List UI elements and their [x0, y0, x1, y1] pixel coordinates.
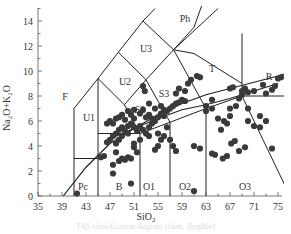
sample-point [260, 82, 266, 88]
sample-point [176, 85, 182, 91]
sample-point [167, 137, 173, 143]
data-points [74, 73, 284, 197]
sample-point [149, 120, 155, 126]
sample-point [122, 117, 128, 123]
sample-point [128, 180, 134, 186]
field-label-o3: O3 [239, 181, 251, 192]
sample-point [236, 148, 242, 154]
sample-point [272, 83, 278, 89]
sample-point [182, 98, 188, 104]
sample-point [152, 105, 158, 111]
sample-point [110, 162, 116, 168]
field-label-o1: O1 [143, 181, 155, 192]
sample-point [188, 77, 194, 83]
sample-point [278, 74, 284, 80]
x-tick-label: 59 [177, 201, 187, 212]
sample-point [101, 153, 107, 159]
x-tick-label: 43 [81, 201, 91, 212]
sample-point [232, 138, 238, 144]
sample-point [242, 144, 248, 150]
sample-point [182, 88, 188, 94]
sample-point [131, 115, 137, 121]
sample-point [227, 113, 233, 119]
sample-point [257, 124, 263, 130]
y-tick-label: 0 [28, 191, 33, 202]
sample-point [257, 113, 263, 119]
sample-point [263, 118, 269, 124]
sample-point [209, 105, 215, 111]
sample-point [155, 130, 161, 136]
sample-point [224, 120, 230, 126]
sample-point [173, 148, 179, 154]
y-tick-label: 12 [23, 41, 33, 52]
field-label-b: B [116, 181, 123, 192]
x-tick-label: 75 [273, 201, 283, 212]
field-label-u3: U3 [140, 43, 152, 54]
field-label-pc: Pc [78, 181, 89, 192]
sample-point [161, 133, 167, 139]
x-tick-label: 67 [225, 201, 235, 212]
x-tick-label: 39 [57, 201, 67, 212]
sample-point [245, 89, 251, 95]
x-tick-label: 35 [33, 201, 43, 212]
y-axis-label: Na₂O+K₂O [1, 85, 12, 131]
sample-point [134, 149, 140, 155]
sample-point [152, 147, 158, 153]
sample-point [146, 100, 152, 106]
sample-point [164, 124, 170, 130]
field-label-r: R [266, 71, 273, 82]
x-tick-label: 55 [153, 201, 163, 212]
sample-point [203, 103, 209, 109]
y-tick-label: 2 [28, 166, 33, 177]
sample-point [113, 149, 119, 155]
sample-point [197, 145, 203, 151]
sample-point [220, 155, 226, 161]
sample-point [263, 90, 269, 96]
sample-point [230, 84, 236, 90]
field-labels: PhU3TRFU2S3U1S2PcBO1O2O3 [62, 13, 272, 192]
sample-point [142, 88, 148, 94]
sample-point [212, 152, 218, 158]
field-label-t: T [209, 63, 215, 74]
x-tick-label: 63 [201, 201, 211, 212]
y-tick-label: 14 [23, 16, 33, 27]
sample-point [146, 133, 152, 139]
x-tick-label: 47 [105, 201, 115, 212]
sample-point [215, 115, 221, 121]
sample-point [218, 127, 224, 133]
sample-point [128, 155, 134, 161]
field-label-ph: Ph [180, 13, 191, 24]
sample-point [251, 123, 257, 129]
sample-point [191, 143, 197, 149]
sample-point [125, 130, 131, 136]
sample-point [245, 105, 251, 111]
field-label-u2: U2 [119, 76, 131, 87]
field-label-u1: U1 [83, 112, 95, 123]
field-label-o2: O2 [179, 181, 191, 192]
sample-point [269, 145, 275, 151]
y-tick-label: 6 [28, 116, 33, 127]
sample-point [197, 74, 203, 80]
figure-caption: TAS classification diagram (faint, illeg… [0, 222, 291, 231]
field-label-f: F [62, 91, 68, 102]
x-tick-label: 71 [249, 201, 259, 212]
y-tick-label: 4 [28, 141, 33, 152]
sample-point [233, 103, 239, 109]
sample-point [227, 105, 233, 111]
y-tick-label: 10 [23, 66, 33, 77]
sample-point [251, 88, 257, 94]
field-boundary [174, 50, 242, 84]
sample-point [245, 118, 251, 124]
tas-diagram: 353943475155596367717502468101214 PhU3TR… [0, 0, 291, 234]
field-label-s3: S3 [159, 88, 170, 99]
sample-point [110, 170, 116, 176]
sample-point [209, 97, 215, 103]
sample-point [191, 188, 197, 194]
y-tick-label: 8 [28, 91, 33, 102]
sample-point [137, 137, 143, 143]
field-label-s2: S2 [135, 104, 146, 115]
